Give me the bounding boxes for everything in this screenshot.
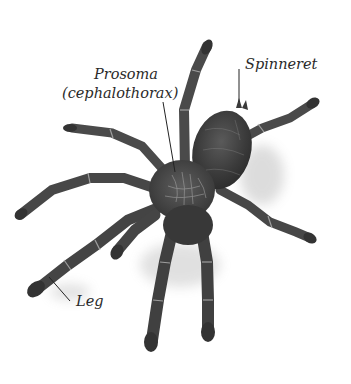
chelicerae bbox=[163, 205, 213, 245]
spinneret-label: Spinneret bbox=[245, 56, 317, 72]
prosoma-label-line1: Prosoma bbox=[62, 66, 158, 82]
leg-lower-right bbox=[202, 232, 208, 330]
leg-upper-left bbox=[72, 128, 168, 175]
leg-label: Leg bbox=[76, 293, 104, 309]
spinnerets bbox=[236, 98, 248, 110]
prosoma-leader-line bbox=[163, 102, 175, 172]
prosoma-label-line2: (cephalothorax) bbox=[62, 85, 158, 101]
tarantula-diagram: Prosoma (cephalothorax) Spinneret Leg bbox=[0, 0, 351, 384]
leg-mid-left bbox=[20, 178, 160, 215]
prosoma-label: Prosoma (cephalothorax) bbox=[62, 66, 158, 101]
